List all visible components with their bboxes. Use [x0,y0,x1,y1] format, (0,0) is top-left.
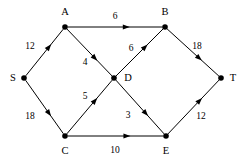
edge-weight-d-b: 6 [129,43,134,53]
node-label-e: E [163,146,169,156]
edge-weight-c-e: 10 [110,145,120,155]
edge-b-t [167,29,219,76]
node-s [21,75,27,81]
node-label-s: S [10,73,16,83]
edge-weight-a-b: 6 [113,11,118,21]
node-label-d: D [124,73,132,83]
arrowhead-a-b-icon [123,24,130,29]
edge-weight-s-a: 12 [25,41,35,51]
node-label-b: B [161,7,168,17]
edge-c-d [67,80,112,134]
edge-d-e [116,80,164,134]
edge-d-b [116,29,163,76]
arrowhead-s-c-icon [45,109,51,116]
node-label-c: C [61,146,68,156]
node-t [218,75,224,81]
edge-a-d [67,29,112,76]
arrowhead-c-e-icon [123,133,130,138]
node-d [111,75,117,81]
edge-s-c [26,80,64,133]
edge-e-t [168,80,219,134]
edge-weight-s-c: 18 [25,111,35,121]
graph-diagram: SACDBET 121864510631812 [0,0,247,161]
edges-group [26,27,219,136]
edge-weight-d-e: 3 [126,110,131,120]
edge-weight-e-t: 12 [196,111,206,121]
edge-s-a [26,29,63,76]
node-a [62,24,68,30]
edge-weight-a-d: 4 [83,57,88,67]
node-b [162,24,168,30]
edge-weight-c-d: 5 [83,91,88,101]
node-c [62,133,68,139]
node-e [163,133,169,139]
node-label-a: A [61,7,69,17]
edge-weight-b-t: 18 [192,41,202,51]
node-label-t: T [230,73,236,83]
